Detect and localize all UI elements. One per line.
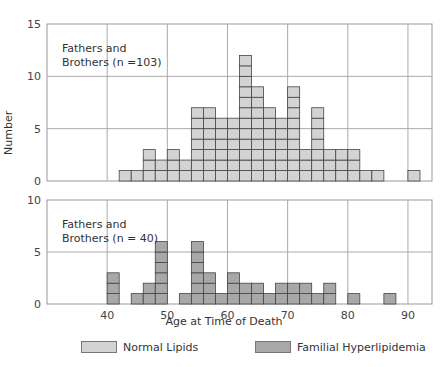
histogram-cell [288,87,300,97]
histogram-cell [372,171,384,181]
histogram-cell [240,160,252,170]
histogram-cell [203,283,215,293]
panel-annotation: Brothers (n = 40) [62,232,158,245]
y-tick-label: 0 [34,298,41,311]
histogram-cell [288,160,300,170]
histogram-cell [336,160,348,170]
histogram-cell [143,160,155,170]
histogram-cell [215,171,227,181]
histogram-cell [312,160,324,170]
histogram-cell [215,294,227,304]
histogram-cell [288,171,300,181]
histogram-cell [191,273,203,283]
legend-label-familial-hyperlipidemia: Familial Hyperlipidemia [297,341,426,354]
histogram-cell [324,294,336,304]
histogram-cell [348,294,360,304]
histogram-cell [252,294,264,304]
histogram-cell [203,108,215,118]
histogram-cell [155,273,167,283]
histogram-cell [240,283,252,293]
histogram-cell [252,118,264,128]
histogram-cell [215,129,227,139]
histogram-cell [360,171,372,181]
histogram-cell [324,150,336,160]
histogram-cell [312,171,324,181]
histogram-cell [215,118,227,128]
top-panel-normal-lipids: 051015Fathers andBrothers (n =103) [27,18,432,188]
histogram-cell [288,97,300,107]
y-tick-label: 0 [34,175,41,188]
histogram-cell [324,160,336,170]
histogram-cell [276,150,288,160]
histogram-cell [264,139,276,149]
histogram-cell [252,160,264,170]
histogram-cell [252,139,264,149]
histogram-cell [240,55,252,65]
histogram-cell [119,171,131,181]
histogram-cell [203,150,215,160]
histogram-cell [252,129,264,139]
histogram-cell [288,139,300,149]
panel-annotation: Fathers and [62,42,127,55]
histogram-cell [155,283,167,293]
histogram-cell [203,294,215,304]
histogram-cell [143,171,155,181]
histogram-cell [191,160,203,170]
histogram-cell [240,66,252,76]
histogram-cell [324,171,336,181]
histogram-cell [276,294,288,304]
legend: Normal Lipids Familial Hyperlipidemia [0,340,448,356]
histogram-cell [276,171,288,181]
histogram-cell [227,273,239,283]
histogram-cell [227,129,239,139]
histogram-cell [252,283,264,293]
panel-annotation: Brothers (n =103) [62,56,162,69]
y-axis-label: Number [2,111,15,155]
histogram-cell [240,97,252,107]
histogram-cell [191,252,203,262]
histogram-cell [408,171,420,181]
histogram-cell [191,262,203,272]
histogram-cell [107,283,119,293]
histogram-cell [203,118,215,128]
histogram-cell [215,139,227,149]
histogram-cell [191,129,203,139]
histogram-cell [348,160,360,170]
histogram-cell [312,294,324,304]
histogram-chart: 051015Fathers andBrothers (n =103) 0510F… [0,0,448,367]
histogram-cell [227,139,239,149]
x-axis-label: Age at Time of Death [0,315,448,328]
histogram-cell [288,283,300,293]
histogram-cell [276,139,288,149]
histogram-cell [167,150,179,160]
histogram-cell [264,108,276,118]
histogram-cell [252,150,264,160]
histogram-cell [252,108,264,118]
histogram-cell [203,129,215,139]
histogram-cell [143,294,155,304]
y-tick-label: 10 [27,194,41,207]
histogram-cell [264,129,276,139]
y-tick-label: 15 [27,18,41,31]
histogram-cell [240,129,252,139]
histogram-cell [288,150,300,160]
histogram-cell [264,160,276,170]
histogram-cell [155,294,167,304]
histogram-cell [312,108,324,118]
histogram-cell [348,171,360,181]
y-tick-label: 5 [34,123,41,136]
histogram-cell [143,283,155,293]
histogram-cell [203,273,215,283]
histogram-cell [264,294,276,304]
histogram-cell [240,294,252,304]
histogram-cell [227,294,239,304]
bottom-panel-familial-hyperlipidemia: 0510Fathers andBrothers (n = 40)40506070… [27,194,432,322]
legend-swatch-familial-hyperlipidemia [255,341,291,353]
histogram-cell [300,294,312,304]
histogram-cell [131,171,143,181]
histogram-cell [227,283,239,293]
histogram-cell [288,108,300,118]
histogram-cell [191,108,203,118]
histogram-cell [191,171,203,181]
histogram-cell [240,150,252,160]
